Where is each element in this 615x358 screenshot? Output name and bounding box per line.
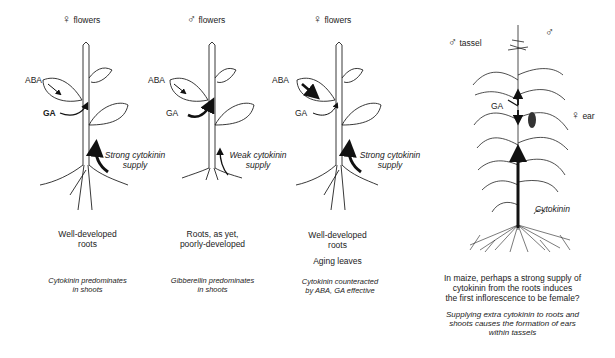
panel-2-roots-caption: Roots, as yet, poorly-developed (155, 229, 270, 249)
panel-3-extra-caption: Aging leaves (280, 256, 395, 266)
panel-2-cytokinin-label: Weak cytokinin supply (224, 150, 292, 170)
panel-3-aba-label: ABA (272, 75, 289, 85)
maize-question-caption: In maize, perhaps a strong supply of cyt… (420, 273, 605, 303)
female-symbol-icon: ♀ (313, 12, 322, 26)
panel-3-header: ♀ flowers (313, 14, 351, 25)
panel-3-roots-caption: Well-developed roots (280, 230, 395, 250)
panel-2-effect-caption: Gibberellin predominates in shoots (150, 276, 275, 294)
male-symbol-icon: ♂ (448, 35, 457, 49)
panel-1-aba-label: ABA (25, 75, 42, 85)
plant-3-arrows (302, 84, 361, 172)
panel-3-ga-label: GA (295, 108, 307, 118)
panel-3-effect-caption: Cytokinin counteracted by ABA, GA effect… (275, 277, 405, 295)
male-symbol-icon: ♂ (187, 12, 196, 26)
maize-ear (528, 112, 536, 128)
panel-3-header-text: flowers (324, 15, 351, 25)
female-symbol-icon: ♀ (62, 12, 71, 26)
maize-ear-label: ♀ ear (571, 110, 595, 121)
panel-2-header: ♂ flowers (187, 14, 225, 25)
maize-top-symbol: ♂ (545, 27, 554, 38)
panel-1-header-text: flowers (73, 15, 100, 25)
male-symbol-icon: ♂ (545, 25, 554, 39)
maize-ga-label: GA (491, 101, 503, 111)
panel-1-ga-label: GA (43, 108, 56, 118)
maize-arrows (508, 92, 518, 228)
maize-note-caption: Supplying extra cytokinin to roots and s… (420, 310, 605, 337)
maize-tassel-label: ♂ tassel (448, 37, 482, 48)
panel-2-header-text: flowers (198, 15, 225, 25)
plant-3-drawing (296, 42, 381, 210)
female-symbol-icon: ♀ (571, 108, 580, 122)
panel-3-cytokinin-label: Strong cytokinin supply (355, 150, 425, 170)
plant-2-arrows (174, 84, 228, 175)
plant-1-drawing (40, 42, 128, 210)
maize-cytokinin-label: Cytokinin (535, 204, 570, 214)
panel-1-roots-caption: Well-developed roots (30, 229, 145, 249)
panel-2-aba-label: ABA (148, 75, 165, 85)
panel-1-cytokinin-label: Strong cytokinin supply (100, 150, 170, 170)
maize-roots (470, 225, 570, 252)
diagram-artwork (0, 0, 615, 358)
plant-1-arrows (48, 84, 108, 172)
panel-1-effect-caption: Cytokinin predominates in shoots (25, 276, 150, 294)
panel-2-ga-label: GA (166, 108, 178, 118)
maize-drawing (473, 25, 568, 230)
panel-1-header: ♀ flowers (62, 14, 100, 25)
